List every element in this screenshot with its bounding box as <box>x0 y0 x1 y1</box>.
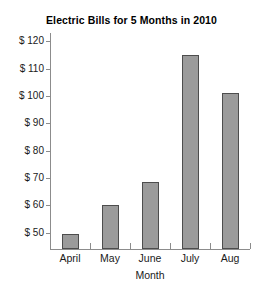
y-axis-tick-label: $ 50 <box>0 227 44 238</box>
y-axis-tick-label: $ 100 <box>0 90 44 101</box>
x-axis-tick <box>250 243 251 249</box>
x-axis-title: Month <box>50 269 250 281</box>
y-axis-tick-label: $ 90 <box>0 117 44 128</box>
x-axis-line <box>50 249 250 250</box>
x-axis-label-aug: Aug <box>202 252 258 264</box>
bar-chart: Electric Bills for 5 Months in 2010 $ 12… <box>0 0 263 297</box>
bar-april <box>62 234 79 249</box>
bar-aug <box>222 93 239 249</box>
chart-title: Electric Bills for 5 Months in 2010 <box>0 14 263 26</box>
y-axis-tick-label: $ 70 <box>0 172 44 183</box>
plot-area <box>50 33 250 249</box>
y-axis-tick-label: $ 80 <box>0 145 44 156</box>
y-axis-tick-label: $ 60 <box>0 199 44 210</box>
bar-may <box>102 205 119 249</box>
bar-june <box>142 182 159 249</box>
y-axis-tick-label: $ 120 <box>0 35 44 46</box>
y-axis-tick-label: $ 110 <box>0 63 44 74</box>
bar-july <box>182 55 199 249</box>
